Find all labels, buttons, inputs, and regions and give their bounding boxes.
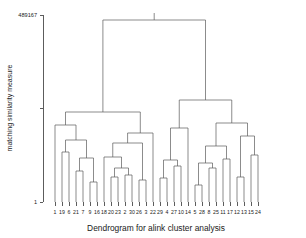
leaf-label-4: 7 [82,209,85,215]
dendrogram-svg: 489167 1 matching similarity measure [0,0,306,238]
leaf-label-27: 13 [241,209,247,215]
leaf-label-29: 24 [255,209,261,215]
leaf-label-16: 4 [166,209,169,215]
y-axis-title: matching similarity measure [6,65,14,152]
leaf-label-19: 14 [185,209,191,215]
leaf-label-11: 30 [129,209,135,215]
leaf-label-2: 6 [68,209,71,215]
leaf-label-5: 9 [89,209,92,215]
leaf-label-26: 12 [234,209,240,215]
leaf-label-13: 3 [145,209,148,215]
leaf-label-8: 20 [108,209,114,215]
leaf-label-12: 26 [136,209,142,215]
leaf-label-3: 21 [73,209,79,215]
leaf-label-23: 25 [213,209,219,215]
leaf-label-15: 29 [157,209,163,215]
x-axis-ticks [55,202,258,206]
leaf-label-10: 2 [124,209,127,215]
x-axis-leaf-labels: 1 19 6 21 7 9 16 18 20 23 2 30 26 3 22 2… [54,209,261,215]
x-axis-title: Dendrogram for alink cluster analysis [87,223,225,233]
leaf-label-21: 28 [199,209,205,215]
leaf-label-22: 8 [208,209,211,215]
leaf-label-24: 11 [220,209,225,215]
leaf-label-25: 17 [227,209,233,215]
leaf-label-0: 1 [54,209,57,215]
leaf-label-28: 15 [248,209,254,215]
leaf-label-17: 27 [171,209,177,215]
leaf-label-7: 18 [101,209,107,215]
leaf-label-14: 22 [150,209,156,215]
y-tick-label-top: 489167 [18,12,37,18]
leaf-label-6: 16 [94,209,100,215]
leaf-label-18: 10 [178,209,184,215]
dendrogram-links [55,13,258,202]
y-tick-label-bottom: 1 [34,199,37,205]
leaf-label-9: 23 [115,209,121,215]
leaf-label-20: 5 [194,209,197,215]
dendrogram-figure: 489167 1 matching similarity measure [0,0,306,238]
leaf-label-1: 19 [59,209,65,215]
